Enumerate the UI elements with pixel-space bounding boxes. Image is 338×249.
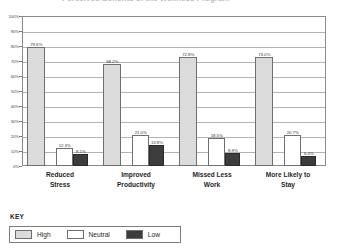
y-axis: 100%90%80%70%60%50%40%30%20%10%0% <box>0 16 22 166</box>
y-tick-label: 40% <box>11 104 19 109</box>
bar-high[interactable]: 72.8% <box>179 57 197 166</box>
bar-group: 73.0%20.7%6.4% <box>250 16 326 166</box>
bar-high[interactable]: 68.2% <box>103 64 121 166</box>
bar-value-label: 8.9% <box>228 148 238 153</box>
bar-neutral[interactable]: 20.7% <box>284 135 301 166</box>
y-tick-label: 30% <box>11 119 19 124</box>
y-tick-label: 90% <box>11 29 19 34</box>
x-category-line: Stress <box>22 180 98 190</box>
y-tick-label: 20% <box>11 134 19 139</box>
bar-value-label: 8.1% <box>76 149 86 154</box>
legend-item-high: High <box>15 230 51 239</box>
legend-label: Low <box>148 231 160 238</box>
bar-value-label: 79.6% <box>30 42 42 47</box>
legend-label: Neutral <box>89 231 110 238</box>
legend-label: High <box>37 231 51 238</box>
bar-value-label: 6.4% <box>304 151 314 156</box>
x-category-label: ImprovedProductivity <box>98 170 174 189</box>
legend-item-neutral: Neutral <box>67 230 110 239</box>
x-axis: ReducedStressImprovedProductivityMissed … <box>22 170 326 196</box>
bar-value-label: 68.2% <box>106 59 118 64</box>
legend-item-low: Low <box>126 230 160 239</box>
bar-high[interactable]: 73.0% <box>255 57 273 167</box>
bar-low[interactable]: 8.1% <box>73 154 88 166</box>
y-tick-label: 50% <box>11 89 19 94</box>
y-tick-label: 70% <box>11 59 19 64</box>
y-tick-label: 60% <box>11 74 19 79</box>
bar-low[interactable]: 6.4% <box>301 156 316 166</box>
chart-legend: HighNeutralLow <box>9 226 181 243</box>
y-tick-label: 80% <box>11 44 19 49</box>
x-category-line: Productivity <box>98 180 174 190</box>
x-category-label: More Likely toStay <box>250 170 326 189</box>
bar-group: 68.2%21.0%13.8% <box>98 16 174 166</box>
y-tick-label: 100% <box>8 14 19 19</box>
bar-neutral[interactable]: 18.5% <box>208 138 225 166</box>
bar-low[interactable]: 13.8% <box>149 145 164 166</box>
bars-layer: 79.6%12.3%8.1%68.2%21.0%13.8%72.8%18.5%8… <box>22 16 326 166</box>
bar-group: 72.8%18.5%8.9% <box>174 16 250 166</box>
x-category-label: ReducedStress <box>22 170 98 189</box>
bar-neutral[interactable]: 21.0% <box>132 135 149 167</box>
x-category-line: Improved <box>98 170 174 180</box>
legend-swatch-low <box>126 230 143 239</box>
bar-value-label: 21.0% <box>135 130 147 135</box>
bar-neutral[interactable]: 12.3% <box>56 148 73 166</box>
y-tick-mark <box>19 166 22 167</box>
bar-value-label: 72.8% <box>182 52 194 57</box>
bar-value-label: 12.3% <box>59 143 71 148</box>
x-category-line: Work <box>174 180 250 190</box>
chart-title: Perceived Benefits of the Wellness Progr… <box>62 0 229 3</box>
legend-swatch-high <box>15 230 32 239</box>
bar-value-label: 18.5% <box>211 133 223 138</box>
bar-low[interactable]: 8.9% <box>225 153 240 166</box>
key-title: KEY <box>10 213 24 220</box>
bar-value-label: 73.0% <box>258 52 270 57</box>
legend-swatch-neutral <box>67 230 84 239</box>
x-category-line: Reduced <box>22 170 98 180</box>
x-category-line: Missed Less <box>174 170 250 180</box>
x-category-label: Missed LessWork <box>174 170 250 189</box>
bar-high[interactable]: 79.6% <box>27 47 45 166</box>
x-category-line: More Likely to <box>250 170 326 180</box>
y-tick-label: 10% <box>11 149 19 154</box>
bar-value-label: 13.8% <box>151 140 163 145</box>
x-category-line: Stay <box>250 180 326 190</box>
bar-group: 79.6%12.3%8.1% <box>22 16 98 166</box>
bar-value-label: 20.7% <box>287 130 299 135</box>
